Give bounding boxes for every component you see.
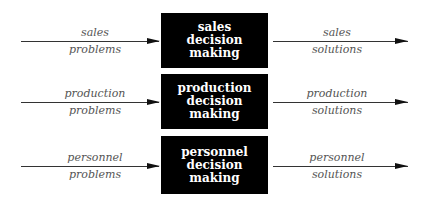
- box-line: personnel: [161, 146, 268, 159]
- box-line: making: [161, 172, 268, 185]
- input-label-top: sales: [55, 26, 135, 39]
- output-arrow-line: [273, 102, 408, 103]
- arrow-head-icon: [147, 99, 160, 105]
- arrow-head-icon: [395, 163, 408, 169]
- decision-box-personnel: personnel decision making: [161, 136, 268, 194]
- output-label-top: personnel: [297, 151, 377, 164]
- output-arrow-line: [273, 166, 408, 167]
- input-arrow-line: [21, 41, 159, 42]
- arrow-head-icon: [395, 38, 408, 44]
- output-label-top: sales: [297, 26, 377, 39]
- output-label-bottom: solutions: [297, 104, 377, 117]
- arrow-head-icon: [147, 38, 160, 44]
- box-line: decision: [161, 159, 268, 172]
- output-arrow-line: [273, 41, 408, 42]
- output-label-bottom: solutions: [297, 43, 377, 56]
- input-label-top: personnel: [55, 151, 135, 164]
- box-line: making: [161, 47, 268, 60]
- arrow-head-icon: [147, 163, 160, 169]
- output-label-bottom: solutions: [297, 168, 377, 181]
- decision-box-production: production decision making: [161, 74, 268, 129]
- input-label-bottom: problems: [55, 168, 135, 181]
- input-label-bottom: problems: [55, 104, 135, 117]
- arrow-head-icon: [395, 99, 408, 105]
- box-line: making: [161, 108, 268, 121]
- input-arrow-line: [21, 102, 159, 103]
- input-label-bottom: problems: [55, 43, 135, 56]
- output-label-top: production: [297, 87, 377, 100]
- input-arrow-line: [21, 166, 159, 167]
- decision-box-sales: sales decision making: [161, 13, 268, 68]
- input-label-top: production: [55, 87, 135, 100]
